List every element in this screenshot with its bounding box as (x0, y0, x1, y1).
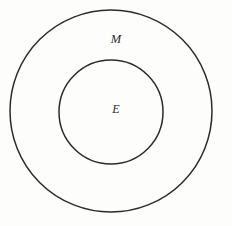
outer-set-label: M (0, 33, 232, 46)
inner-set-label: E (0, 103, 232, 115)
euler-diagram-figure: M E (0, 0, 232, 226)
